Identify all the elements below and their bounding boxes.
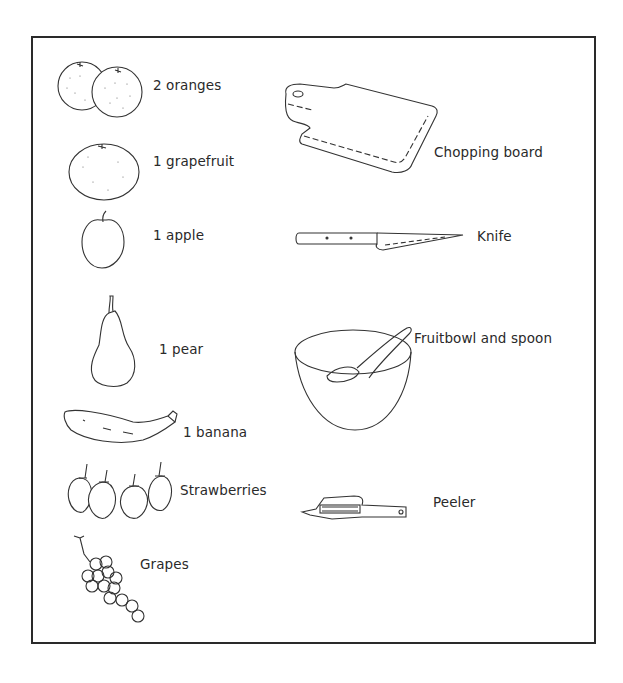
chopping-board-label: Chopping board <box>434 144 543 160</box>
peeler-label: Peeler <box>433 494 475 510</box>
fruitbowl-spoon-label: Fruitbowl and spoon <box>414 330 552 346</box>
grapefruit-label: 1 grapefruit <box>153 153 234 169</box>
apple-label: 1 apple <box>153 227 204 243</box>
peeler-icon <box>302 495 427 525</box>
grapefruit-icon <box>68 142 143 202</box>
pear-label: 1 pear <box>159 341 203 357</box>
chopping-board-icon <box>282 84 442 174</box>
knife-icon <box>295 230 470 252</box>
pear-icon <box>87 295 142 390</box>
oranges-icon <box>55 58 155 128</box>
knife-label: Knife <box>477 228 512 244</box>
banana-label: 1 banana <box>183 424 247 440</box>
banana-icon <box>63 408 178 448</box>
grapes-icon <box>72 534 157 624</box>
fruitbowl-spoon-icon <box>293 326 418 432</box>
strawberries-label: Strawberries <box>180 482 267 498</box>
apple-icon <box>80 210 128 270</box>
strawberries-icon <box>65 462 180 522</box>
grapes-label: Grapes <box>140 556 189 572</box>
oranges-label: 2 oranges <box>153 77 221 93</box>
